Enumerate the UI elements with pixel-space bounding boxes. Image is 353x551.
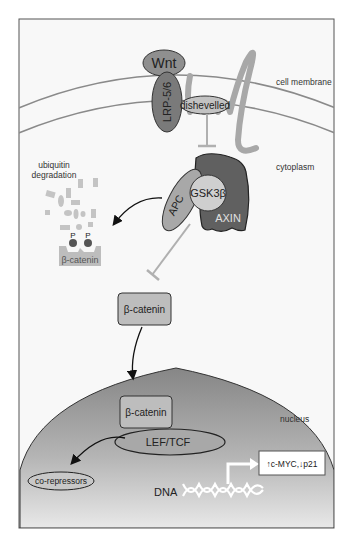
co-repressors-label: co-repressors (35, 476, 87, 486)
phospho-label-1: P (70, 231, 75, 240)
cytoplasm-label: cytoplasm (276, 162, 314, 172)
degraded-beta-catenin-label: β-catenin (61, 255, 98, 265)
membrane-label: cell membrane (276, 77, 332, 87)
axin-label: AXIN (215, 212, 241, 224)
target-genes-label: ↑c-MYC,↓p21 (266, 459, 317, 469)
beta-catenin-nucleus-label: β-catenin (125, 407, 166, 418)
phospho-label-2: P (85, 231, 90, 240)
phospho-dot-1 (69, 239, 77, 247)
ubiquitin-label: ubiquitin (38, 160, 70, 170)
gsk3b-label: GSK3β (190, 187, 226, 199)
wnt-label: Wnt (152, 55, 177, 71)
dishevelled-label: dishevelled (180, 100, 230, 111)
phospho-dot-2 (84, 239, 92, 247)
dna-label: DNA (154, 486, 178, 498)
beta-catenin-cytoplasm-label: β-catenin (124, 304, 165, 315)
lef-tcf-label: LEF/TCF (146, 436, 191, 448)
degradation-label: degradation (32, 170, 77, 180)
wnt-pathway-diagram: Wnt LRP-5/6 dishevelled cell membrane cy… (0, 0, 353, 551)
nucleus-label: nucleus (280, 414, 309, 424)
lrp-label: LRP-5/6 (161, 82, 173, 122)
